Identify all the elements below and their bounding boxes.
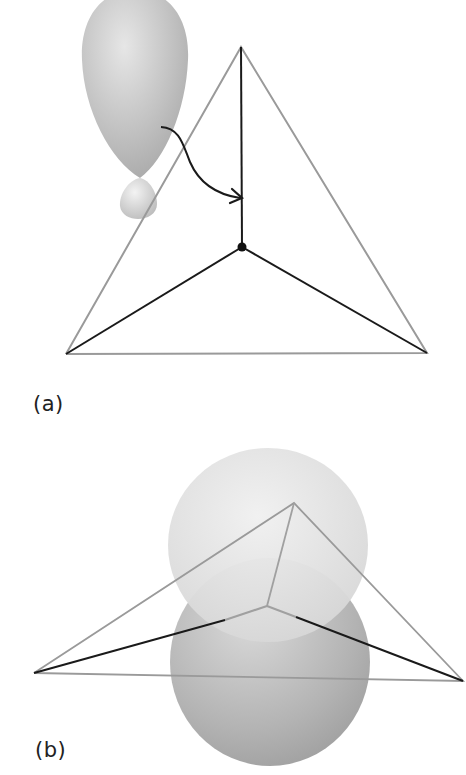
panel-label-b: (b) xyxy=(35,738,66,762)
bond-right xyxy=(242,247,427,353)
bond-vertical xyxy=(241,47,242,247)
panel-label-a: (a) xyxy=(33,392,64,416)
orbital-small-lobe xyxy=(120,178,157,219)
panel-b xyxy=(34,448,463,766)
bond-left xyxy=(66,247,242,354)
central-atom-dot xyxy=(238,243,247,252)
orbital-large-lobe xyxy=(82,0,188,178)
p-orbital-upper-lobe xyxy=(168,448,368,642)
curved-arrow xyxy=(161,127,240,198)
diagram-canvas xyxy=(0,0,466,775)
panel-a xyxy=(66,0,427,354)
